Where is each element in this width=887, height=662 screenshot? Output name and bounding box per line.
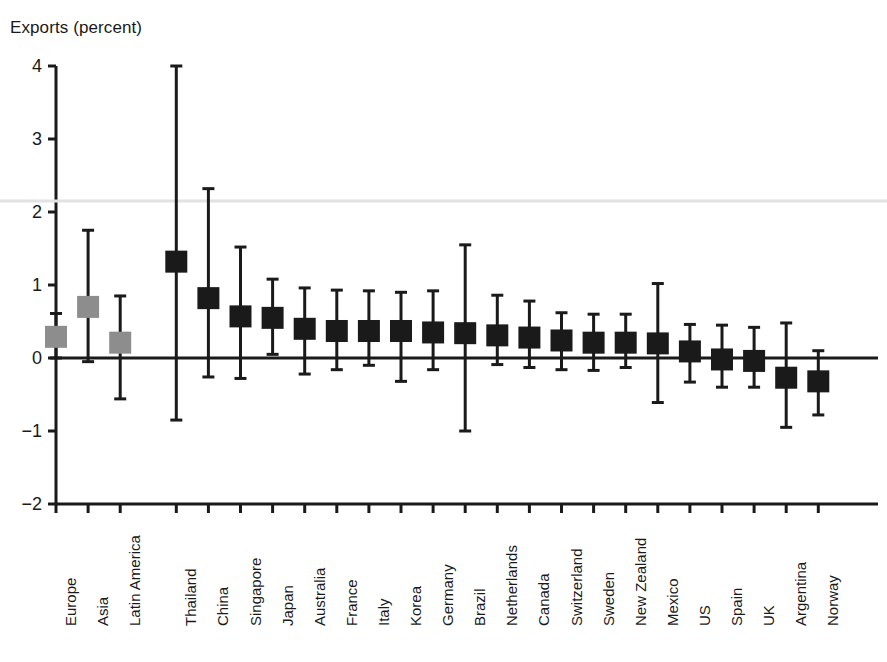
data-point-group [294, 288, 316, 374]
x-tick-label: Brazil [471, 588, 488, 626]
x-tick-label: US [696, 605, 713, 626]
x-tick-label: Singapore [247, 558, 264, 626]
x-tick-label: Japan [279, 585, 296, 626]
y-tick-label: 4 [8, 56, 42, 77]
x-tick-label: Argentina [792, 562, 809, 626]
x-tick-label: New Zealand [632, 538, 649, 626]
data-point-group [165, 66, 187, 420]
data-point-group [197, 189, 219, 377]
x-tick-label: Norway [824, 575, 841, 626]
x-tick-label: Europe [62, 578, 79, 626]
y-tick-label: 3 [8, 129, 42, 150]
point-estimate-marker [647, 332, 669, 354]
point-estimate-marker [358, 320, 380, 342]
point-estimate-marker [326, 320, 348, 342]
data-point-group [262, 279, 284, 354]
point-estimate-marker [775, 367, 797, 389]
point-estimate-marker [518, 327, 540, 349]
data-point-group [358, 291, 380, 365]
x-tick-label: Netherlands [503, 545, 520, 626]
point-estimate-marker [583, 332, 605, 354]
data-point-group [647, 284, 669, 403]
point-estimate-marker [422, 321, 444, 343]
point-estimate-marker [679, 340, 701, 362]
y-tick-label: 2 [8, 202, 42, 223]
data-point-group [551, 313, 573, 370]
point-estimate-marker [165, 251, 187, 273]
x-tick-label: Italy [375, 598, 392, 626]
point-estimate-marker [551, 329, 573, 351]
data-point-group [807, 351, 829, 415]
data-point-group [775, 323, 797, 427]
data-point-group [45, 313, 67, 358]
point-estimate-marker [294, 318, 316, 340]
data-point-group [679, 324, 701, 382]
point-estimate-marker [743, 350, 765, 372]
point-estimate-marker [486, 324, 508, 346]
data-point-group [454, 245, 476, 431]
point-estimate-marker [390, 320, 412, 342]
point-estimate-marker [230, 305, 252, 327]
x-tick-label: Germany [439, 564, 456, 626]
point-estimate-marker [109, 332, 131, 354]
point-estimate-marker [262, 307, 284, 329]
y-tick-label: 0 [8, 348, 42, 369]
x-tick-label: Australia [311, 568, 328, 626]
y-tick-label: −2 [8, 494, 42, 515]
x-tick-label: Sweden [600, 572, 617, 626]
data-point-group [583, 314, 605, 370]
x-tick-label: Canada [535, 573, 552, 626]
x-tick-label: Latin America [126, 535, 143, 626]
y-tick-label: 1 [8, 275, 42, 296]
x-tick-label: Thailand [182, 568, 199, 626]
data-point-group [77, 230, 99, 361]
data-point-group [711, 325, 733, 387]
point-estimate-marker [197, 287, 219, 309]
point-estimate-marker [454, 322, 476, 344]
data-point-group [486, 295, 508, 364]
point-estimate-marker [711, 348, 733, 370]
x-tick-label: Switzerland [568, 548, 585, 626]
y-axis-title: Exports (percent) [10, 18, 142, 38]
data-point-group [390, 292, 412, 381]
x-tick-label: Korea [407, 586, 424, 626]
x-tick-label: UK [760, 605, 777, 626]
data-point-group [109, 296, 131, 399]
data-point-group [743, 327, 765, 387]
point-estimate-marker [77, 296, 99, 318]
x-tick-label: China [214, 587, 231, 626]
x-tick-label: Spain [728, 588, 745, 626]
point-estimate-marker [807, 370, 829, 392]
y-tick-label: −1 [8, 421, 42, 442]
point-estimate-marker [615, 332, 637, 354]
x-tick-label: France [343, 579, 360, 626]
x-tick-label: Asia [94, 597, 111, 626]
x-tick-label: Mexico [664, 578, 681, 626]
chart-figure: Exports (percent) 43210−1−2 EuropeAsiaLa… [0, 0, 887, 662]
point-estimate-marker [45, 326, 67, 348]
